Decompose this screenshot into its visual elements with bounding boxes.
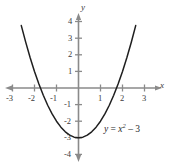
y-tick-label: -2: [64, 117, 71, 126]
y-tick-label: -4: [64, 150, 71, 159]
y-tick-label: 3: [68, 34, 72, 43]
equation-label: y = x2 – 3: [104, 123, 140, 135]
x-tick-label: -2: [28, 94, 35, 103]
y-tick-label: 2: [68, 50, 72, 59]
y-tick-label: -3: [64, 133, 71, 142]
y-tick-label: -1: [64, 100, 71, 109]
x-axis-label: x: [160, 81, 164, 90]
x-tick-label: 1: [98, 94, 102, 103]
y-axis-label: y: [81, 3, 85, 12]
y-tick-label: 1: [68, 67, 72, 76]
x-tick-label: -1: [50, 94, 57, 103]
y-tick-label: 4: [68, 17, 72, 26]
equation-constant: 3: [135, 124, 140, 134]
coordinate-plane: [0, 0, 169, 167]
x-tick-label: 2: [120, 94, 124, 103]
x-tick-label: -3: [6, 94, 13, 103]
x-tick-label: 3: [142, 94, 146, 103]
x-axis: [5, 85, 162, 92]
graph-figure: -3 -2 -1 1 2 3 4 3 2 1 -1 -2 -3 -4 x y y…: [0, 0, 169, 167]
